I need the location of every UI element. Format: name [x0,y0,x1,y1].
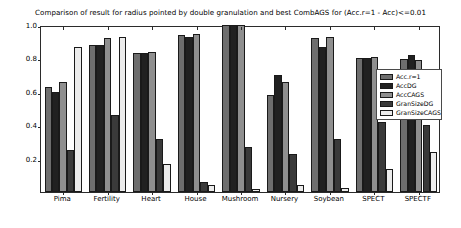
bar-group [85,27,129,192]
y-axis-tick-mark [38,60,41,61]
bar-accr1-heart [133,53,140,192]
bar-accr1-pima [45,87,52,192]
bar-accdg-house [185,37,192,192]
bar-accdg-mushroom [230,25,237,192]
legend-swatch-icon [380,74,393,80]
bar-acccags-nursery [282,82,289,192]
x-axis-tick-mark-top [285,27,286,30]
x-axis-tick-mark-top [63,27,64,30]
bar-accdg-soybean [319,47,326,192]
legend-item[interactable]: GranSizeDG [380,99,438,108]
bar-accr1-mushroom [222,25,229,192]
x-axis-tick-label: Fertility [94,195,120,203]
legend-swatch-icon [380,110,393,116]
bar-gransizecags-pima [74,47,81,192]
bar-accr1-nursery [267,95,274,192]
bar-accdg-fertility [96,45,103,192]
y-axis-labels: 0.20.40.60.81.0 [0,26,40,193]
bar-accdg-nursery [274,75,281,192]
bar-gransizedg-nursery [289,154,296,192]
bar-gransizedg-house [200,182,207,192]
bar-group [130,27,174,192]
legend-swatch-icon [380,101,393,107]
legend-item[interactable]: AccDG [380,81,438,90]
x-axis-tick-mark-top [108,27,109,30]
legend-label: Acc.r=1 [396,72,421,81]
x-axis-tick-mark-top [419,27,420,30]
legend-item[interactable]: GranSizeCAGS [380,108,438,117]
y-axis-tick-label: 0.4 [26,122,37,130]
bar-gransizecags-soybean [341,188,348,192]
bar-gransizedg-spectf [423,125,430,192]
legend-swatch-icon [380,92,393,98]
x-axis-tick-label: Mushroom [222,195,259,203]
bar-acccags-soybean [326,37,333,192]
x-axis-tick-mark-top [241,27,242,30]
bar-group [219,27,263,192]
bar-group [41,27,85,192]
bar-gransizedg-soybean [334,139,341,192]
bar-gransizecags-spectf [430,152,437,192]
bar-group [263,27,307,192]
bar-acccags-fertility [104,38,111,192]
y-axis-tick-label: 0.6 [26,89,37,97]
x-axis-tick-mark-top [374,27,375,30]
x-axis-tick-label: Soybean [314,195,344,203]
y-axis-tick-label: 0.2 [26,156,37,164]
bar-acccags-pima [59,82,66,192]
x-axis-tick-mark-top [152,27,153,30]
bar-accr1-fertility [89,45,96,192]
bar-gransizedg-fertility [111,115,118,192]
y-axis-tick-label: 0.8 [26,55,37,63]
chart-figure: Comparison of result for radius pointed … [0,0,461,228]
legend-swatch-icon [380,83,393,89]
y-axis-tick-mark [38,94,41,95]
bar-accdg-spect [363,58,370,192]
x-axis-tick-label: SPECT [362,195,384,203]
bar-acccags-heart [148,52,155,192]
bar-group [174,27,218,192]
bar-accr1-house [178,35,185,192]
bar-accdg-heart [141,53,148,192]
x-axis-tick-mark-top [197,27,198,30]
bar-gransizecags-mushroom [252,189,259,192]
bar-gransizedg-spect [378,122,385,192]
x-axis-tick-label: Pima [54,195,71,203]
legend-label: AccCAGS [396,90,424,99]
chart-legend: Acc.r=1AccDGAccCAGSGranSizeDGGranSizeCAG… [376,69,442,120]
chart-title: Comparison of result for radius pointed … [0,8,461,17]
bar-gransizecags-spect [386,169,393,192]
y-axis-tick-mark [38,161,41,162]
x-axis-tick-label: House [185,195,207,203]
legend-item[interactable]: Acc.r=1 [380,72,438,81]
legend-item[interactable]: AccCAGS [380,90,438,99]
bar-gransizedg-pima [67,150,74,192]
x-axis-labels: PimaFertilityHeartHouseMushroomNurserySo… [40,195,440,209]
bar-gransizedg-heart [156,139,163,192]
bar-gransizedg-mushroom [245,147,252,192]
legend-label: GranSizeCAGS [396,108,441,117]
bar-accdg-pima [52,92,59,192]
x-axis-tick-label: SPECTF [405,195,431,203]
bar-accr1-soybean [311,38,318,192]
bar-accr1-spect [356,58,363,192]
legend-label: AccDG [396,81,417,90]
bar-gransizecags-house [208,185,215,192]
legend-label: GranSizeDG [396,99,433,108]
bar-acccags-house [193,34,200,192]
bar-gransizecags-heart [163,164,170,192]
bar-gransizecags-fertility [119,37,126,192]
x-axis-tick-label: Heart [141,195,160,203]
y-axis-tick-mark [38,127,41,128]
x-axis-tick-mark-top [330,27,331,30]
y-axis-tick-mark [38,27,41,28]
bar-acccags-mushroom [237,25,244,192]
bar-gransizecags-nursery [297,185,304,192]
bar-group [308,27,352,192]
x-axis-tick-label: Nursery [271,195,299,203]
y-axis-tick-label: 1.0 [26,22,37,30]
